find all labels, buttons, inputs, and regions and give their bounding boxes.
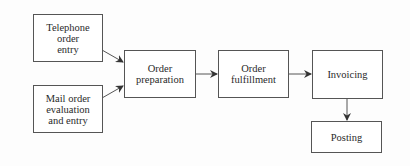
arrow-telephone-to-prep — [102, 50, 123, 62]
node-mail-order-evaluation: Mail order evaluation and entry — [33, 85, 103, 133]
diagram-canvas: Telephone order entry Mail order evaluat… — [0, 0, 410, 166]
node-label: Mail order evaluation and entry — [46, 93, 91, 126]
arrow-mail-to-prep — [102, 86, 123, 98]
node-label: Telephone order entry — [46, 22, 90, 55]
node-label: Order fulfillment — [231, 63, 276, 85]
node-order-preparation: Order preparation — [124, 50, 196, 98]
node-order-fulfillment: Order fulfillment — [218, 50, 289, 98]
node-label: Posting — [331, 132, 363, 143]
node-invoicing: Invoicing — [312, 50, 383, 99]
node-telephone-order-entry: Telephone order entry — [33, 14, 103, 62]
node-label: Invoicing — [327, 69, 367, 80]
node-label: Order preparation — [136, 63, 184, 85]
node-posting: Posting — [311, 121, 382, 153]
